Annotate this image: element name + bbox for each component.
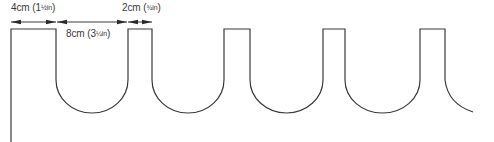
- dimension-label-tooth-width: 4cm (1½in): [11, 3, 55, 13]
- scallop-template-diagram: [0, 0, 494, 142]
- label-fraction: ½in: [41, 4, 52, 11]
- scallop-outline: [11, 29, 473, 142]
- label-main: 4cm (1: [11, 2, 41, 13]
- label-main: 8cm (3: [66, 28, 96, 39]
- label-main: 2cm (: [122, 2, 147, 13]
- dimension-label-narrow-tooth: 2cm (¾in): [122, 3, 161, 13]
- label-fraction: ¾in: [147, 4, 158, 11]
- label-close: ): [107, 28, 110, 39]
- dimension-label-gap-width: 8cm (3¼in): [66, 29, 110, 39]
- label-fraction: ¼in: [96, 30, 107, 37]
- label-close: ): [52, 2, 55, 13]
- label-close: ): [158, 2, 161, 13]
